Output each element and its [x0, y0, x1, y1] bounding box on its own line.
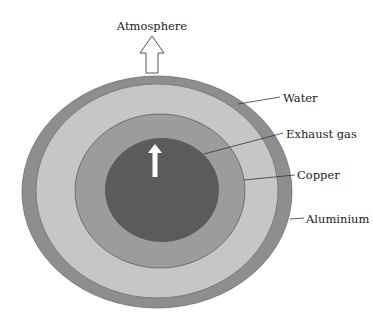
outlet-arrow-icon — [140, 36, 164, 73]
copper-label: Copper — [297, 168, 340, 182]
exhaust-gas-label: Exhaust gas — [286, 127, 357, 141]
heat-exchanger-diagram: Atmosphere Water Exhaust gas Copper Alum… — [0, 0, 373, 323]
aluminium-label: Aluminium — [305, 212, 369, 226]
exhaust-gas-core — [105, 138, 219, 242]
aluminium-leader-line — [290, 218, 304, 219]
atmosphere-label: Atmosphere — [116, 19, 188, 33]
water-leader-line — [238, 97, 280, 104]
water-label: Water — [283, 91, 318, 105]
